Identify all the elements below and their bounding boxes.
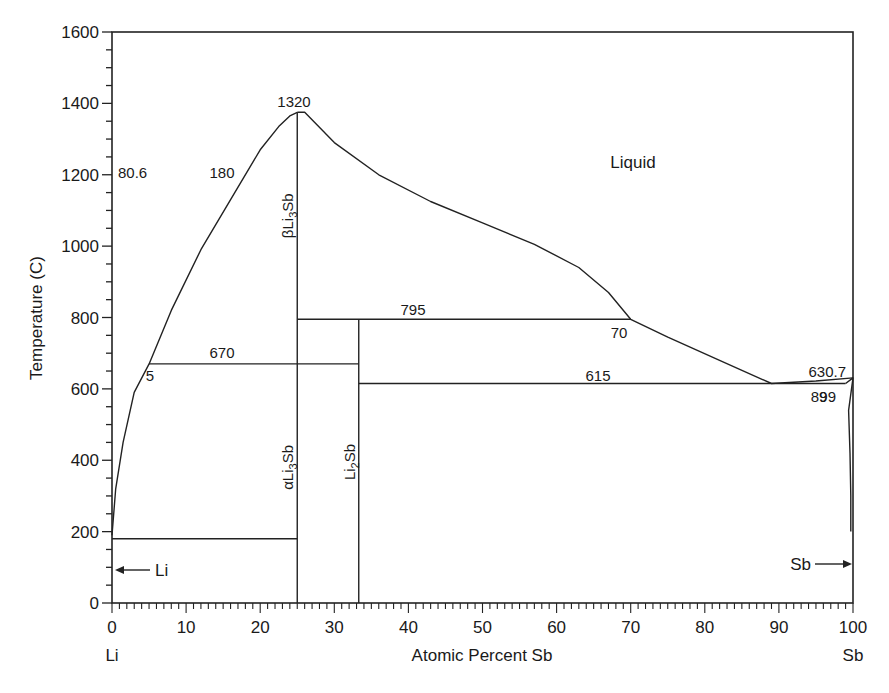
x-tick-label: 0 [107, 618, 116, 637]
y-tick-label: 1200 [61, 166, 99, 185]
plot-frame [112, 32, 853, 603]
x-tick-label: 30 [325, 618, 344, 637]
x-axis-right-element: Sb [843, 646, 864, 665]
annotation-label: 99 [819, 388, 836, 405]
annotation-label: 180 [209, 164, 234, 181]
y-axis-title: Temperature (C) [27, 256, 46, 380]
y-tick-label: 1400 [61, 94, 99, 113]
li-arrow-label: Li [155, 561, 168, 580]
phase-label: βLi3Sb [279, 193, 299, 238]
sb-arrow-icon [843, 560, 852, 568]
phase-diagram-chart: 02004006008001000120014001600 0102030405… [0, 0, 889, 693]
x-tick-label: 20 [251, 618, 270, 637]
y-tick-label: 600 [71, 380, 99, 399]
sb-arrow-label: Sb [790, 555, 811, 574]
y-tick-label: 0 [90, 594, 99, 613]
plot-border [112, 32, 853, 603]
y-tick-label: 200 [71, 523, 99, 542]
x-tick-label: 90 [769, 618, 788, 637]
liquidus-curve [297, 112, 853, 383]
x-tick-label: 100 [839, 618, 867, 637]
annotation-label: 670 [209, 344, 234, 361]
phase-label: Li2Sb [341, 444, 361, 480]
phase-labels: βLi3SbαLi3SbLi2Sb [279, 193, 361, 489]
y-tick-label: 1600 [61, 23, 99, 42]
annotation-label: 80.6 [118, 164, 147, 181]
y-axis: 02004006008001000120014001600 [61, 23, 112, 613]
annotation-label: 1320 [277, 93, 310, 110]
annotation-label: 615 [585, 367, 610, 384]
li-arrow-icon [115, 566, 124, 574]
y-tick-label: 800 [71, 309, 99, 328]
annotation-label: 5 [146, 367, 154, 384]
region-label-liquid: Liquid [610, 153, 655, 172]
x-tick-label: 50 [473, 618, 492, 637]
annotation-label: 630.7 [808, 363, 846, 380]
annotation-label: 70 [611, 324, 628, 341]
y-tick-label: 1000 [61, 237, 99, 256]
phase-label: αLi3Sb [279, 445, 299, 490]
x-axis: 0102030405060708090100 [107, 603, 867, 637]
annotations: 132067057957061589630.79980.6180LiSb [115, 93, 852, 580]
annotation-label: 795 [400, 301, 425, 318]
x-axis-title: Atomic Percent Sb [412, 646, 553, 665]
x-tick-label: 10 [177, 618, 196, 637]
x-tick-label: 60 [547, 618, 566, 637]
liquidus-curve [846, 378, 853, 532]
x-tick-label: 40 [399, 618, 418, 637]
x-tick-label: 70 [621, 618, 640, 637]
y-tick-label: 400 [71, 451, 99, 470]
x-tick-label: 80 [695, 618, 714, 637]
x-axis-left-element: Li [105, 646, 118, 665]
